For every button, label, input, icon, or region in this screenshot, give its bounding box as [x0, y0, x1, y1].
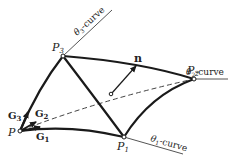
- label-g3: G3: [8, 110, 22, 123]
- label-g2: G2: [35, 108, 49, 121]
- label-p: P: [7, 126, 16, 139]
- normal-origin-point: [109, 92, 113, 96]
- label-p3: P3: [51, 41, 64, 55]
- edge-p3-p1: [63, 56, 124, 137]
- edge-p1-p2: [124, 79, 194, 137]
- edge-p-p3: [20, 56, 63, 131]
- point-p1: [122, 135, 126, 139]
- label-n: n: [134, 52, 142, 65]
- label-g1: G1: [36, 131, 50, 144]
- label-p1: P1: [116, 140, 129, 154]
- point-p: [18, 129, 22, 133]
- dashed-curve-p-p2: [22, 79, 194, 130]
- edge-p3-p2: [63, 56, 194, 79]
- surface-element-diagram: P3 P2 P1 P n G3 G2 G1 θ3-curve θ θ θ2-cu…: [0, 0, 228, 162]
- label-theta1-curve: θ1-curve: [149, 133, 188, 154]
- label-theta3-curve: θ3-curve: [72, 5, 107, 38]
- normal-vector: [112, 66, 136, 93]
